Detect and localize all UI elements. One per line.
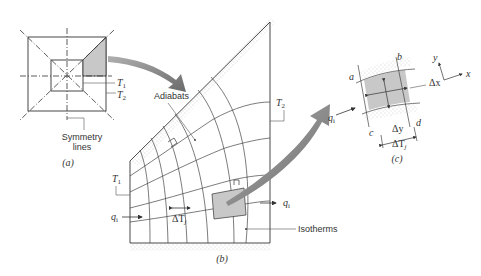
axis-y-label: y [432, 52, 438, 63]
isotherm [130, 201, 270, 222]
panel-a: T1 T2 Symmetry lines (a) [20, 28, 127, 169]
label-isotherms: Isotherms [298, 224, 338, 234]
label-T1-b: T1 [112, 173, 122, 186]
corner-c: c [369, 127, 374, 138]
adiabat [198, 90, 234, 243]
heat-flux-plot-diagram: T1 T2 Symmetry lines (a) [0, 0, 481, 276]
label-delta-x: Δx [429, 77, 440, 88]
isotherm [130, 102, 270, 176]
label-delta-T-c: ΔTj [392, 138, 407, 151]
label-panel-a: (a) [62, 157, 74, 169]
label-delta-y: Δy [392, 123, 403, 134]
heat-flow-arrow-c [336, 108, 355, 115]
label-T2-a: T2 [117, 89, 127, 102]
label-adiabats: Adiabats [154, 91, 190, 101]
x-axis-arrow [444, 74, 462, 80]
label-q-in: qi [111, 211, 118, 224]
corner-b: b [397, 51, 402, 62]
label-symmetry-line2: lines [73, 142, 92, 152]
label-panel-c: (c) [391, 153, 403, 165]
panel-c: a b c d Δx Δy ΔTj qi x y (c) [328, 51, 471, 165]
adiabatic-boundary-bottom [130, 244, 270, 251]
adiabat [140, 150, 150, 243]
label-panel-b: (b) [216, 253, 228, 265]
axis-x-label: x [465, 68, 471, 79]
adiabat [151, 138, 168, 243]
label-symmetry-line1: Symmetry [62, 132, 103, 142]
label-T2-b: T2 [276, 97, 286, 110]
adiabat [163, 126, 187, 243]
corner-a: a [349, 71, 354, 82]
label-delta-T-b: ΔTj [172, 213, 187, 226]
label-q-out: qi [283, 197, 290, 210]
corner-d: d [416, 117, 422, 128]
